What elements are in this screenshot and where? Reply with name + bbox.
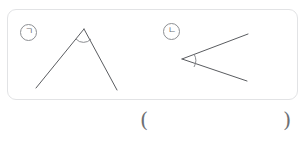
nieun-ray-lower (182, 59, 247, 81)
nieun-ray-upper (182, 34, 248, 59)
figure-nieun (182, 34, 248, 81)
worksheet-screenshot: ㄱ ㄴ ( ) (0, 0, 308, 141)
answer-row: ( ) (0, 104, 308, 141)
giyeok-angle-arc (76, 39, 91, 42)
figure-panel: ㄱ ㄴ (7, 9, 298, 100)
giyeok-ray-left (36, 29, 84, 88)
answer-close-paren: ) (283, 104, 291, 136)
nieun-angle-arc (194, 54, 196, 67)
answer-open-paren: ( (140, 104, 148, 136)
answer-input[interactable] (150, 108, 281, 134)
figure-giyeok (36, 29, 117, 90)
giyeok-ray-right (84, 29, 117, 90)
figures-drawing (8, 10, 299, 101)
